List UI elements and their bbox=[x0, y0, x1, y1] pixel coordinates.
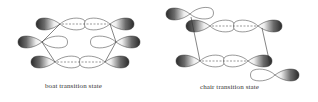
orbital-lobe-shaded bbox=[275, 69, 299, 81]
orbital-lobe-shaded bbox=[166, 8, 190, 20]
chair-lower-row bbox=[176, 55, 272, 67]
boat-caption: boat transition state bbox=[45, 82, 102, 90]
boat-panel bbox=[18, 18, 140, 68]
orbital-lobe-shaded bbox=[36, 18, 60, 30]
orbital-lobe-open bbox=[251, 69, 276, 81]
orbital-lobe-shaded bbox=[18, 36, 42, 48]
boat-top-row bbox=[36, 18, 134, 30]
orbital-lobe-shaded bbox=[186, 20, 210, 32]
orbital-lobe-open bbox=[91, 36, 117, 48]
boat-bottom-row bbox=[31, 56, 129, 68]
orbital-lobe-shaded bbox=[31, 56, 55, 68]
orbital-lobe-shaded bbox=[116, 36, 140, 48]
chair-top-left-orbital bbox=[166, 7, 214, 20]
orbital-lobe-open bbox=[190, 7, 214, 19]
orbital-lobe-shaded bbox=[105, 56, 129, 68]
chair-upper-row bbox=[186, 20, 282, 32]
orbital-lobe-shaded bbox=[258, 20, 282, 32]
orbital-lobe-shaded bbox=[176, 55, 200, 67]
orbital-lobe-shaded bbox=[110, 18, 134, 30]
chair-bottom-right-orbital bbox=[251, 69, 300, 81]
chair-caption: chair transition state bbox=[200, 83, 259, 91]
boat-middle-row bbox=[18, 36, 140, 48]
chair-panel bbox=[166, 7, 299, 81]
